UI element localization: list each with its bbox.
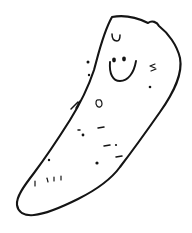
doodle-canvas: Smiling potato doodle A hand-drawn elong… [0,0,192,233]
mark-dot-2 [88,74,90,76]
mark-dot-3 [149,86,152,89]
mark-dot-6 [48,159,50,161]
right-eye [122,57,126,62]
mark-dot-4 [82,134,85,137]
doodle-drawing [0,0,192,233]
mark-dot-5 [95,161,98,164]
mark-dash-1 [98,127,104,128]
left-eye [112,58,116,63]
mark-dot-7 [115,144,117,146]
paper-background [0,0,192,233]
mark-dot-1 [87,61,90,64]
mark-dash-3 [116,156,122,157]
mark-dash-2 [104,145,110,146]
